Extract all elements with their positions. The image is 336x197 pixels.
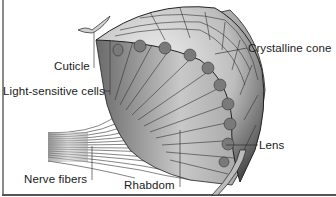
- cuticle-flap: [78, 16, 110, 33]
- label-nerve-fibers: Nerve fibers: [24, 173, 87, 186]
- label-light-sensitive-cells: Light-sensitive cells: [3, 85, 105, 98]
- label-crystalline-cone: Crystalline cone: [248, 42, 331, 55]
- nerve-fiber-shading: [48, 132, 88, 162]
- label-cuticle: Cuticle: [54, 60, 90, 73]
- label-lens: Lens: [259, 139, 284, 152]
- label-rhabdom: Rhabdom: [124, 179, 175, 192]
- compound-eye-illustration: [0, 0, 336, 197]
- diagram-frame: Cuticle Light-sensitive cells Nerve fibe…: [0, 0, 336, 197]
